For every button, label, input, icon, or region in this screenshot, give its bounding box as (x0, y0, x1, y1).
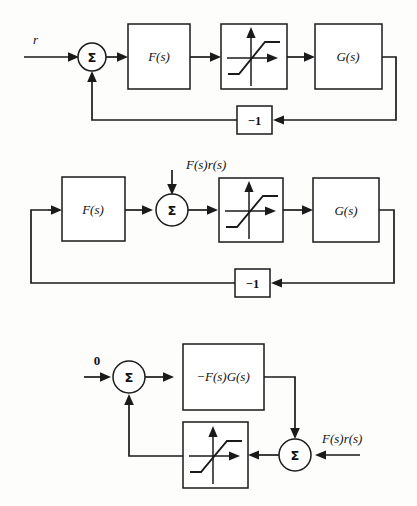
arrowhead-into-negative-gain-block (271, 278, 282, 287)
arrowhead-into-saturation-block (207, 205, 218, 215)
combined-plant-block-label: −F(s)G(s) (196, 369, 250, 384)
negative-gain-block-label: −1 (246, 277, 259, 291)
summing-junction-right-label: Σ (291, 448, 300, 463)
arrowhead-into-right-summing-junction (290, 428, 300, 439)
wire-saturation-to-left-sum (129, 405, 183, 456)
arrowhead-into-combined-block (163, 372, 174, 382)
arrowhead-into-summing-junction (142, 205, 153, 215)
diagram-original-feedback-loop: r Σ F(s) G(s) −1 (0, 0, 417, 155)
diagram-rearranged-loop: F(s) Σ F(s)r(s) G(s) −1 (0, 155, 417, 320)
arrowhead-into-negative-gain-block (273, 115, 284, 124)
zero-input-label: 0 (94, 353, 101, 368)
figure-canvas: r Σ F(s) G(s) −1 (0, 0, 417, 506)
arrowhead-feedback-into-left-summing-junction (124, 394, 134, 405)
plant-block-label: G(s) (336, 49, 359, 64)
linear-filter-block-label: F(s) (81, 202, 104, 217)
summing-junction-label: Σ (88, 50, 97, 65)
arrowhead-into-plant-block (302, 205, 313, 215)
arrowhead-zero-input-into-sum (100, 372, 111, 382)
arrowhead-injected-input-into-right-sum (315, 450, 326, 459)
diagram-reduced-loop: 0 Σ −F(s)G(s) Σ F(s)r(s) (0, 320, 417, 506)
arrowhead-into-saturation-block (210, 52, 221, 62)
arrowhead-into-plant-block (304, 52, 315, 62)
arrowhead-into-saturation-block (248, 450, 259, 459)
linear-filter-block-label: F(s) (147, 49, 170, 64)
arrowhead-feedback-into-summing-junction (87, 71, 97, 82)
arrowhead-into-filter-block (51, 205, 62, 215)
arrowhead-injected-input-into-sum (167, 184, 177, 195)
arrowhead-into-filter-block (117, 52, 128, 62)
injected-input-label: F(s)r(s) (321, 431, 362, 446)
summing-junction-label: Σ (168, 203, 177, 218)
reference-input-label: r (33, 32, 39, 47)
summing-junction-left-label: Σ (125, 370, 134, 385)
negative-gain-block-label: −1 (248, 114, 261, 128)
plant-block-label: G(s) (334, 203, 357, 218)
injected-input-label: F(s)r(s) (185, 157, 226, 172)
wire-combined-block-to-right-sum (264, 377, 295, 428)
